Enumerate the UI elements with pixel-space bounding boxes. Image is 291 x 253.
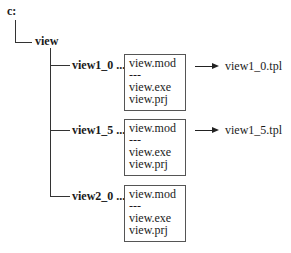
output-file: view1_0.tpl [225, 59, 282, 74]
tree-trunk [50, 48, 51, 196]
tree-connector [15, 20, 16, 42]
version-label: view1_0 ... [72, 58, 125, 73]
version-label: view2_0 ... [72, 189, 125, 204]
file-name: view.prj [129, 93, 181, 105]
version-label: view1_5 ... [72, 123, 125, 138]
output-file: view1_5.tpl [225, 123, 282, 138]
file-name: view.prj [129, 224, 181, 236]
tree-connector [50, 130, 70, 131]
tree-connector [50, 65, 70, 66]
file-box: view.mod --- view.exe view.prj [124, 185, 186, 242]
arrow-icon [195, 130, 213, 131]
file-name: view.prj [129, 158, 181, 170]
root-drive-label: c: [7, 4, 16, 19]
arrow-icon [195, 66, 213, 67]
file-box: view.mod --- view.exe view.prj [124, 119, 186, 176]
tree-connector [50, 196, 70, 197]
file-box: view.mod --- view.exe view.prj [124, 54, 186, 111]
tree-connector [15, 42, 32, 43]
folder-label: view [35, 34, 58, 49]
